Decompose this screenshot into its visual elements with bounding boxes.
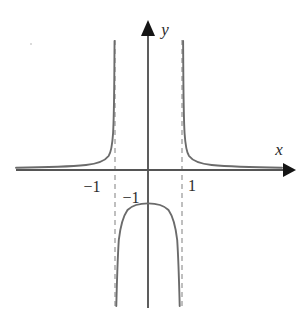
axis-name-group: x y (159, 20, 283, 159)
x-axis-arrowhead (283, 163, 296, 177)
tick-label-x-minus-1: −1 (83, 178, 100, 195)
tick-label-x-plus-1: 1 (188, 177, 196, 194)
y-axis-arrowhead (141, 20, 155, 36)
function-graph-figure: −1 −1 1 x y (0, 0, 304, 318)
tick-label-y-minus-1: −1 (122, 189, 139, 206)
plot-canvas: −1 −1 1 x y (0, 0, 304, 318)
x-axis-label: x (274, 140, 283, 159)
tick-label-group: −1 −1 1 (83, 177, 196, 206)
axis-group (16, 20, 296, 308)
curve-right-branch (183, 41, 282, 168)
y-axis-label: y (159, 20, 169, 39)
curve-left-branch (16, 41, 115, 168)
curve-group (16, 41, 282, 306)
